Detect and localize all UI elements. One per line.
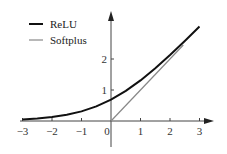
x-tick-label: 2 bbox=[167, 125, 173, 137]
legend-label: Softplus bbox=[50, 34, 87, 46]
y-ticks: 12 bbox=[102, 53, 115, 96]
x-axis bbox=[20, 118, 214, 124]
x-tick-label: 3 bbox=[197, 125, 203, 137]
legend-item-softplus: Softplus bbox=[29, 34, 87, 46]
x-axis-arrow-icon bbox=[204, 118, 214, 124]
legend: ReLU Softplus bbox=[29, 18, 87, 46]
softplus-line bbox=[111, 45, 183, 121]
y-tick-label: 1 bbox=[102, 84, 108, 96]
x-tick-label: −2 bbox=[46, 125, 58, 137]
y-axis-arrow-icon bbox=[108, 11, 114, 21]
x-tick-label: 1 bbox=[138, 125, 144, 137]
legend-label: ReLU bbox=[50, 18, 77, 30]
x-tick-label: −3 bbox=[17, 125, 29, 137]
y-tick-label: 2 bbox=[102, 53, 108, 65]
x-tick-label: −1 bbox=[76, 125, 88, 137]
legend-item-relu: ReLU bbox=[29, 18, 77, 30]
activation-chart: −3−2−10123 12 ReLU Softplus bbox=[0, 0, 227, 154]
x-tick-label: 0 bbox=[104, 125, 110, 137]
